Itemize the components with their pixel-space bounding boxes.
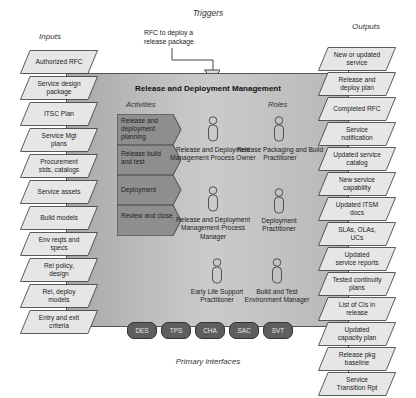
output-item[interactable]: Release pkg baseline xyxy=(318,347,396,371)
output-item[interactable]: Updated capacity plan xyxy=(318,322,396,346)
person-icon xyxy=(207,186,219,212)
input-item[interactable]: Rel policy, design xyxy=(20,258,98,282)
output-item[interactable]: Release and deploy plan xyxy=(318,72,396,96)
output-item[interactable]: Service notification xyxy=(318,122,396,146)
activity-deployment[interactable]: Deployment xyxy=(117,175,189,205)
activities-heading: Activities xyxy=(126,100,156,109)
person-icon xyxy=(273,188,285,214)
outputs-heading: Outputs xyxy=(336,22,396,31)
input-item[interactable]: Service Mgt plans xyxy=(20,128,98,152)
input-item[interactable]: Service assets xyxy=(20,180,98,204)
input-item[interactable]: Procurement stds, catalogs xyxy=(20,154,98,178)
role-deployment-practitioner: Deployment Practitioner xyxy=(244,217,314,234)
output-item[interactable]: SLAs, OLAs, UCs xyxy=(318,222,396,246)
output-item[interactable]: Tested continuity plans xyxy=(318,272,396,296)
person-icon xyxy=(207,116,219,142)
input-item[interactable]: Rel, deploy models xyxy=(20,284,98,308)
activity-planning[interactable]: Release and deployment planning xyxy=(117,114,189,145)
inputs-heading: Inputs xyxy=(20,32,80,41)
input-item[interactable]: Build models xyxy=(20,206,98,230)
input-item[interactable]: Entry and exit criteria xyxy=(20,310,98,334)
trigger-text: RFC to deploy a release package xyxy=(144,28,216,46)
input-item[interactable]: Service design package xyxy=(20,76,98,100)
output-item[interactable]: New service capability xyxy=(318,172,396,196)
interface-sac[interactable]: SAC xyxy=(229,322,259,339)
output-item[interactable]: Updated service catalog xyxy=(318,147,396,171)
output-item[interactable]: Completed RFC xyxy=(318,97,396,121)
input-item[interactable]: ITSC Plan xyxy=(20,102,98,126)
input-item[interactable]: Authorized RFC xyxy=(20,50,98,74)
input-item[interactable]: Env reqts and specs xyxy=(20,232,98,256)
role-early-life-support: Early Life Support Practitioner xyxy=(186,288,248,305)
output-item[interactable]: New or updated service xyxy=(318,47,396,71)
output-item[interactable]: Service Transition Rpt xyxy=(318,372,396,396)
person-icon xyxy=(273,116,285,142)
triggers-heading: Triggers xyxy=(158,8,258,18)
person-icon xyxy=(271,258,283,284)
role-packaging-build-practitioner: Release Packaging and Build Practitioner xyxy=(236,146,324,163)
roles-heading: Roles xyxy=(268,100,287,109)
output-item[interactable]: Updated service reports xyxy=(318,247,396,271)
output-item[interactable]: Updated ITSM docs xyxy=(318,197,396,221)
interface-svt[interactable]: SVT xyxy=(263,322,293,339)
interface-tps[interactable]: TPS xyxy=(161,322,191,339)
interface-des[interactable]: DES xyxy=(127,322,157,339)
primary-interfaces-heading: Primary interfaces xyxy=(158,357,258,366)
person-icon xyxy=(211,258,223,284)
output-item[interactable]: List of CIs in release xyxy=(318,297,396,321)
interface-cha[interactable]: CHA xyxy=(195,322,225,339)
role-build-test-env-manager: Build and Test Environment Manager xyxy=(244,288,310,305)
